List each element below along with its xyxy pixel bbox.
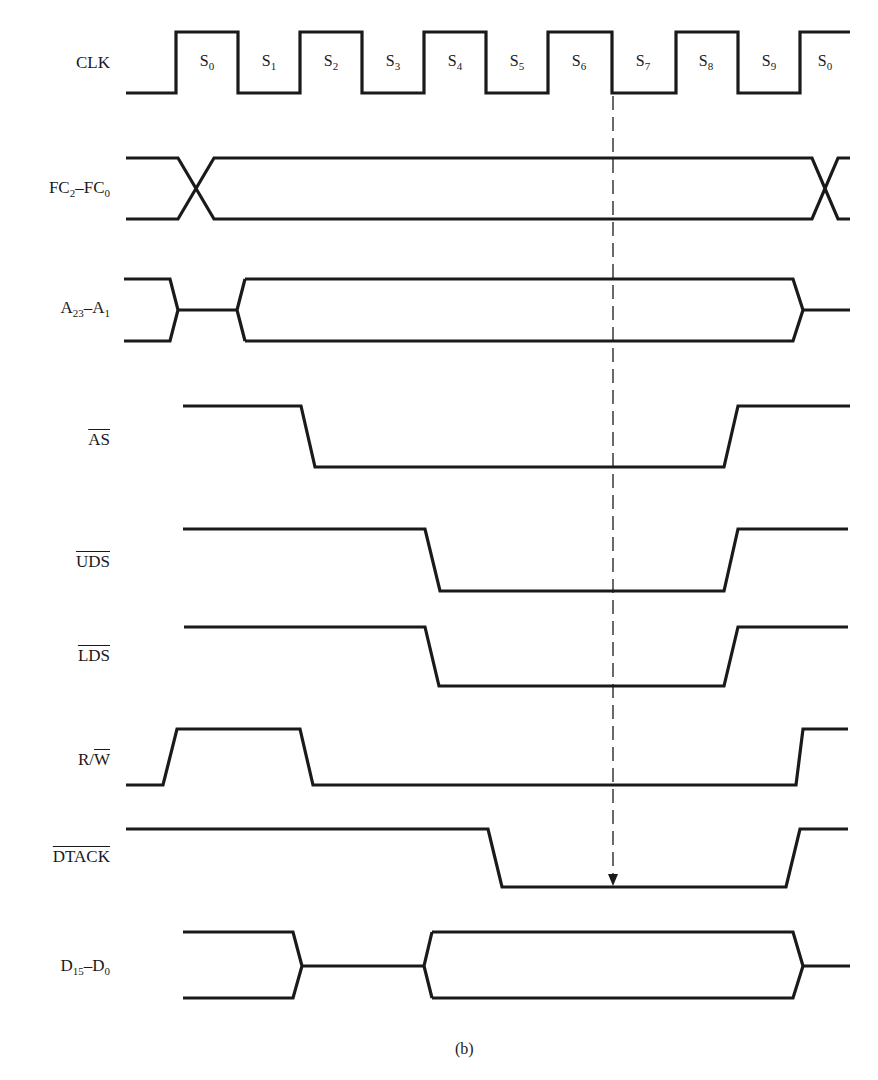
figure-caption: (b) — [455, 1040, 474, 1058]
uds-waveform — [183, 529, 848, 591]
dtack-label: DTACK — [0, 847, 110, 867]
clock-state-label: S8 — [686, 52, 726, 72]
uds-label: UDS — [0, 552, 110, 572]
data-label: D15–D0 — [0, 956, 110, 977]
clock-state-label: S0 — [805, 52, 845, 72]
address-label: A23–A1 — [0, 298, 110, 319]
as-waveform — [183, 406, 850, 467]
clock-state-label: S1 — [249, 52, 289, 72]
clk-label: CLK — [0, 53, 110, 73]
fc-waveform — [126, 158, 850, 219]
clock-state-label: S7 — [623, 52, 663, 72]
clk-waveform — [126, 32, 850, 93]
data-waveform — [183, 932, 850, 998]
lds-label: LDS — [0, 646, 110, 666]
clock-state-label: S2 — [311, 52, 351, 72]
clock-state-label: S5 — [497, 52, 537, 72]
clock-state-label: S9 — [749, 52, 789, 72]
clock-state-label: S0 — [187, 52, 227, 72]
clock-state-label: S4 — [435, 52, 475, 72]
clock-state-label: S6 — [559, 52, 599, 72]
fc-label: FC2–FC0 — [0, 178, 110, 199]
rw-label: R/W — [0, 750, 110, 770]
dtack-sample-marker — [608, 96, 618, 886]
timing-diagram — [0, 0, 878, 1080]
as-label: AS — [0, 430, 110, 450]
address-waveform — [124, 279, 850, 341]
dtack-waveform — [126, 829, 848, 887]
clock-state-label: S3 — [373, 52, 413, 72]
rw-waveform — [126, 729, 848, 785]
lds-waveform — [184, 627, 848, 686]
